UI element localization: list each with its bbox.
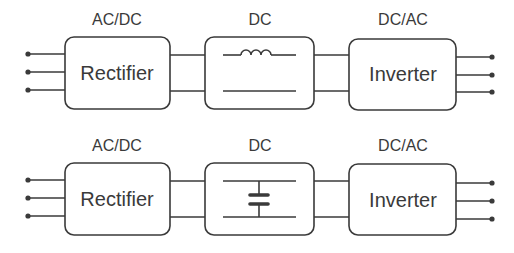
rectifier-type-label: AC/DC: [92, 137, 142, 154]
rectifier-title: Rectifier: [80, 62, 154, 84]
dc-link-block: [205, 37, 314, 109]
dc-link-block: [205, 163, 314, 235]
terminal-dot-icon: [489, 72, 494, 77]
input-terminals: [25, 177, 65, 218]
terminal-dot-icon: [25, 69, 30, 74]
terminal-dot-icon: [489, 89, 494, 94]
rectifier-title: Rectifier: [80, 188, 154, 210]
terminal-dot-icon: [489, 216, 494, 221]
terminal-dot-icon: [25, 87, 30, 92]
dc-link-type-label: DC: [248, 11, 271, 28]
terminal-dot-icon: [489, 54, 494, 59]
terminal-dot-icon: [25, 51, 30, 56]
dc-link-type-label: DC: [248, 137, 271, 154]
terminal-dot-icon: [25, 213, 30, 218]
output-terminals: [456, 54, 495, 94]
terminal-dot-icon: [25, 177, 30, 182]
inverter-title: Inverter: [369, 189, 437, 211]
inverter-title: Inverter: [369, 63, 437, 85]
input-terminals: [25, 51, 65, 92]
terminal-dot-icon: [25, 195, 30, 200]
output-terminals: [456, 180, 495, 221]
rectifier-type-label: AC/DC: [92, 11, 142, 28]
terminal-dot-icon: [489, 198, 494, 203]
terminal-dot-icon: [489, 180, 494, 185]
converter-diagram: AC/DC DC DC/AC Rectifier Inverter AC/DC …: [0, 0, 514, 253]
inductor-icon: [223, 50, 296, 91]
capacitor-icon: [223, 181, 296, 217]
inverter-type-label: DC/AC: [378, 11, 428, 28]
inverter-type-label: DC/AC: [378, 137, 428, 154]
